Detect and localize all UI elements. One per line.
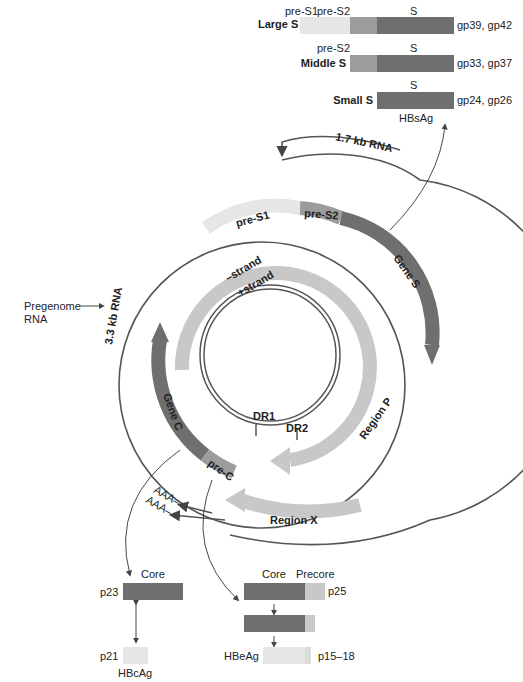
p15-18-label: p15–18 bbox=[318, 650, 355, 662]
pre-s2-label: pre-S2 bbox=[304, 207, 339, 221]
region-x-label: Region X bbox=[270, 514, 318, 526]
hbeag-label: HBeAg bbox=[224, 650, 259, 662]
core-label: Core bbox=[141, 568, 165, 580]
rna-1-7kb-label: 1.7 kb RNA bbox=[335, 130, 394, 154]
p25-label: p25 bbox=[328, 585, 346, 597]
p23-label: p23 bbox=[100, 586, 118, 598]
label: pre-S2 bbox=[317, 5, 350, 17]
middle-s-label: Middle S bbox=[301, 57, 346, 69]
hbsag-label: HBsAg bbox=[399, 112, 433, 124]
hbcag-label: HBcAg bbox=[118, 667, 152, 679]
label: gp24, gp26 bbox=[457, 94, 512, 106]
label: pre-S1 bbox=[285, 5, 318, 17]
large-s-label: Large S bbox=[258, 18, 298, 30]
pregenome-label-2: RNA bbox=[24, 313, 48, 325]
dr2-label: DR2 bbox=[286, 422, 308, 434]
diagram-canvas: pre-S1 pre-S2 S Large S gp39, gp42 pre-S… bbox=[0, 0, 523, 682]
label: S bbox=[410, 42, 417, 54]
small-s-label: Small S bbox=[333, 94, 373, 106]
label: gp39, gp42 bbox=[457, 19, 512, 31]
p21-label: p21 bbox=[100, 650, 118, 662]
precore-label: Precore bbox=[296, 568, 335, 580]
surface-proteins: pre-S1 pre-S2 S Large S gp39, gp42 pre-S… bbox=[258, 5, 512, 124]
pregenome-label: Pregenome bbox=[24, 300, 81, 312]
label: pre-S2 bbox=[317, 42, 350, 54]
label: S bbox=[410, 5, 417, 17]
label: S bbox=[410, 79, 417, 91]
core-label: Core bbox=[262, 568, 286, 580]
dr1-label: DR1 bbox=[253, 410, 275, 422]
rna-3-3kb-label: 3.3 kb RNA bbox=[102, 286, 124, 345]
hbv-genome-diagram: pre-S1 pre-S2 S Large S gp39, gp42 pre-S… bbox=[0, 0, 523, 682]
label: gp33, gp37 bbox=[457, 57, 512, 69]
